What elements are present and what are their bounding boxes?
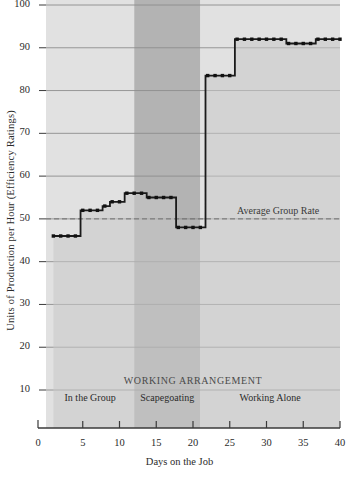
band-label-in-the-group: In the Group (46, 392, 134, 403)
data-point (155, 196, 158, 199)
data-point (287, 42, 290, 45)
data-point (169, 196, 172, 199)
data-point (88, 209, 91, 212)
data-point (96, 209, 99, 212)
data-point (265, 38, 268, 41)
data-point (324, 38, 327, 41)
x-tick-label-30: 30 (255, 437, 279, 448)
data-point (338, 38, 341, 41)
x-tick-label-25: 25 (218, 437, 242, 448)
chart-plot-area (0, 0, 359, 485)
data-point (81, 209, 84, 212)
x-tick-label-35: 35 (291, 437, 315, 448)
y-tick-label-100: 100 (8, 0, 30, 9)
data-point (147, 196, 150, 199)
y-tick-label-50: 50 (8, 212, 30, 223)
data-point (272, 38, 275, 41)
data-point (177, 226, 180, 229)
data-point (235, 38, 238, 41)
y-tick-label-60: 60 (8, 169, 30, 180)
data-point (309, 42, 312, 45)
x-tick-label-5: 5 (71, 437, 95, 448)
y-tick-label-30: 30 (8, 297, 30, 308)
x-tick-label-40: 40 (328, 437, 352, 448)
data-point (125, 192, 128, 195)
y-tick-label-20: 20 (8, 340, 30, 351)
data-point (294, 42, 297, 45)
data-point (162, 196, 165, 199)
data-point (66, 234, 69, 237)
y-tick-label-80: 80 (8, 84, 30, 95)
data-point (133, 192, 136, 195)
band-label-scapegoating: Scapegoating (134, 392, 200, 403)
data-point (280, 38, 283, 41)
data-point (74, 234, 77, 237)
x-tick-label-15: 15 (144, 437, 168, 448)
x-tick-label-20: 20 (181, 437, 205, 448)
data-point (59, 234, 62, 237)
data-point (103, 204, 106, 207)
y-tick-label-40: 40 (8, 255, 30, 266)
x-axis-title: Days on the Job (0, 456, 359, 467)
data-point (199, 226, 202, 229)
data-point (206, 74, 209, 77)
data-point (213, 74, 216, 77)
data-point (52, 234, 55, 237)
data-point (191, 226, 194, 229)
data-point (228, 74, 231, 77)
y-tick-label-90: 90 (8, 41, 30, 52)
x-tick-label-10: 10 (108, 437, 132, 448)
data-point (184, 226, 187, 229)
data-point (118, 200, 121, 203)
band-heading-working-arrangement: WORKING ARRANGEMENT (46, 375, 340, 386)
data-point (243, 38, 246, 41)
x-tick-label-0: 0 (26, 437, 50, 448)
band-label-working-alone: Working Alone (200, 392, 340, 403)
data-point (331, 38, 334, 41)
production-efficiency-chart: Units of Production per Hour (Efficiency… (0, 0, 359, 485)
data-point (140, 192, 143, 195)
data-point (257, 38, 260, 41)
data-point (221, 74, 224, 77)
y-tick-label-10: 10 (8, 383, 30, 394)
data-point (302, 42, 305, 45)
data-point (250, 38, 253, 41)
data-point (110, 200, 113, 203)
average-group-rate-label: Average Group Rate (237, 205, 319, 216)
y-tick-label-70: 70 (8, 126, 30, 137)
data-point (316, 38, 319, 41)
